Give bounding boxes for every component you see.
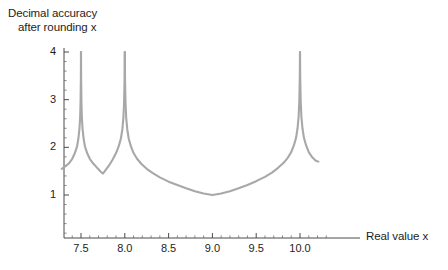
data-curve (62, 52, 319, 195)
x-axis-title: Real value x (366, 230, 428, 242)
curve-segment (125, 52, 300, 195)
chart-figure: Decimal accuracy after rounding x Real v… (0, 0, 448, 270)
y-tick-label: 1 (40, 188, 56, 200)
x-tick-label: 9.5 (240, 242, 272, 254)
x-tick-label: 9.0 (196, 242, 228, 254)
x-tick-label: 10.0 (284, 242, 316, 254)
x-tick-label: 8.5 (153, 242, 185, 254)
y-axis-title-line-2: after rounding x (18, 20, 96, 34)
axes (64, 48, 360, 238)
x-tick-label: 7.5 (65, 242, 97, 254)
curve-segment (62, 52, 81, 169)
y-tick-label: 4 (40, 45, 56, 57)
curve-segment (300, 52, 318, 162)
curve-segment (81, 52, 125, 174)
tick-marks (64, 52, 326, 238)
y-tick-label: 3 (40, 93, 56, 105)
y-tick-label: 2 (40, 140, 56, 152)
y-axis-title-line-1: Decimal accuracy (8, 6, 97, 20)
x-tick-label: 8.0 (109, 242, 141, 254)
